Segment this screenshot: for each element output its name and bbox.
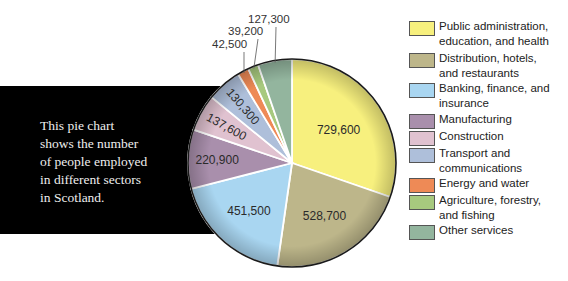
legend-label: Public administration,education, and hea… [439, 19, 567, 49]
legend-swatch-icon [409, 148, 435, 163]
legend-swatch-icon [409, 195, 435, 210]
legend-item: Other services [409, 223, 567, 240]
legend-label: Banking, finance, andinsurance [439, 81, 567, 111]
legend-swatch-icon [409, 178, 435, 193]
description-line: shows the number [40, 135, 190, 153]
legend-swatch-icon [409, 53, 435, 68]
legend-item: Manufacturing [409, 112, 567, 129]
legend-label: Construction [439, 129, 567, 144]
legend-item: Public administration,education, and hea… [409, 19, 567, 49]
legend-swatch-icon [409, 114, 435, 129]
description-line: of people employed [40, 153, 190, 171]
legend-label: Transport andcommunications [439, 146, 567, 176]
callout-value-label: 127,300 [248, 13, 290, 25]
description-line: in different sectors [40, 171, 190, 189]
description-line: in Scotland. [40, 189, 190, 207]
legend-swatch-icon [409, 131, 435, 146]
description-text: This pie chart shows the number of peopl… [40, 117, 190, 207]
slice-value-label: 451,500 [227, 204, 271, 218]
legend-item: Energy and water [409, 176, 567, 193]
legend-item: Transport andcommunications [409, 146, 567, 176]
slice-value-label: 729,600 [317, 123, 361, 137]
legend-label: Agriculture, forestry,and fishing [439, 193, 567, 223]
legend-item: Banking, finance, andinsurance [409, 81, 567, 111]
callout-value-label: 39,200 [228, 25, 263, 37]
legend-item: Distribution, hotels,and restaurants [409, 51, 567, 81]
legend-label: Distribution, hotels,and restaurants [439, 51, 567, 81]
callout-line [275, 27, 276, 62]
description-line: This pie chart [40, 117, 190, 135]
legend-item: Construction [409, 129, 567, 146]
legend-label: Manufacturing [439, 112, 567, 127]
legend-swatch-icon [409, 21, 435, 36]
legend-item: Agriculture, forestry,and fishing [409, 193, 567, 223]
slice-value-label: 220,900 [195, 153, 239, 167]
legend-label: Other services [439, 223, 567, 238]
legend-label: Energy and water [439, 176, 567, 191]
legend-swatch-icon [409, 83, 435, 98]
slice-value-label: 528,700 [303, 209, 347, 223]
legend-swatch-icon [409, 225, 435, 240]
callout-value-label: 42,500 [212, 38, 247, 50]
